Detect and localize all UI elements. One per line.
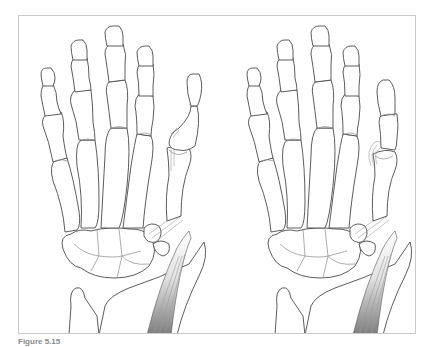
- distal-phalanx-5: [41, 68, 55, 86]
- carpal-bones: [268, 228, 361, 278]
- proximal-phalanx-1-thumb-fragment: [169, 106, 199, 151]
- middle-phalanx-2: [343, 64, 360, 96]
- carpal-bones: [62, 228, 155, 278]
- ulna-bone: [275, 288, 305, 334]
- hands-illustration: [19, 16, 416, 334]
- middle-phalanx-5: [247, 84, 267, 116]
- proximal-phalanx-3: [312, 80, 333, 128]
- middle-phalanx-3: [105, 44, 126, 82]
- distal-phalanx-3: [105, 26, 123, 46]
- right-hand: [247, 26, 412, 334]
- figure-caption: Figure 5.15: [18, 337, 60, 346]
- metacarpal-1-thumb: [166, 146, 191, 221]
- ulna-bone: [69, 288, 99, 334]
- proximal-phalanx-5: [43, 112, 68, 162]
- left-hand: [41, 26, 206, 334]
- figure-frame: [18, 15, 416, 334]
- metacarpal-5: [51, 158, 79, 232]
- middle-phalanx-5: [41, 84, 61, 116]
- middle-phalanx-3: [311, 44, 332, 82]
- proximal-phalanx-3: [106, 80, 127, 128]
- distal-phalanx-2: [343, 46, 359, 66]
- middle-phalanx-2: [137, 64, 154, 96]
- middle-phalanx-4: [277, 58, 297, 92]
- middle-phalanx-4: [71, 58, 91, 92]
- distal-phalanx-1-thumb: [187, 74, 202, 106]
- proximal-phalanx-4: [71, 90, 96, 140]
- proximal-phalanx-4: [277, 90, 302, 140]
- metacarpal-5: [257, 158, 285, 232]
- distal-phalanx-1-thumb: [377, 80, 395, 116]
- distal-phalanx-4: [71, 40, 87, 60]
- caption-label: Figure 5.15: [18, 337, 60, 346]
- distal-phalanx-5: [247, 68, 261, 86]
- distal-phalanx-2: [137, 46, 153, 66]
- proximal-phalanx-1-thumb: [379, 114, 398, 150]
- proximal-phalanx-2: [341, 94, 360, 136]
- proximal-phalanx-5: [249, 112, 274, 162]
- distal-phalanx-3: [311, 26, 329, 46]
- proximal-phalanx-2: [135, 94, 154, 136]
- distal-phalanx-4: [277, 40, 293, 60]
